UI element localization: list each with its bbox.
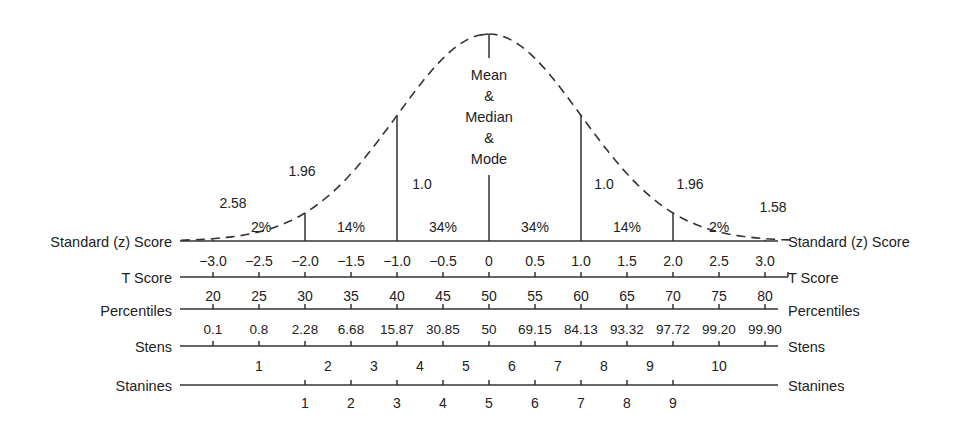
z-value: −3.0 bbox=[199, 253, 227, 269]
sten-value: 1 bbox=[255, 358, 263, 374]
scale-name-right: Standard (z) Score bbox=[788, 234, 910, 250]
t-value: 40 bbox=[389, 288, 405, 304]
percentile-value: 15.87 bbox=[380, 322, 414, 337]
t-value: 55 bbox=[527, 288, 543, 304]
scale-name-left: T Score bbox=[121, 270, 172, 286]
t-value: 35 bbox=[343, 288, 359, 304]
label-1-96-left: 1.96 bbox=[288, 163, 315, 179]
scale-name-right: Percentiles bbox=[788, 303, 860, 319]
area-percent: 2% bbox=[709, 219, 729, 235]
area-percent: 34% bbox=[429, 219, 457, 235]
z-value: −1.5 bbox=[337, 253, 365, 269]
percentile-value: 99.20 bbox=[702, 322, 736, 337]
z-value: −0.5 bbox=[429, 253, 457, 269]
sten-value: 2 bbox=[324, 358, 332, 374]
label-1-0-right: 1.0 bbox=[594, 176, 614, 192]
z-value: 0.5 bbox=[525, 253, 545, 269]
scale-name-right: Stens bbox=[788, 339, 825, 355]
label-1-58-right: 1.58 bbox=[759, 199, 786, 215]
area-percent: 34% bbox=[521, 219, 549, 235]
z-value: 1.5 bbox=[617, 253, 637, 269]
scale-name-right: Stanines bbox=[788, 378, 844, 394]
scale-name-right: T Score bbox=[788, 270, 839, 286]
area-percent: 2% bbox=[251, 219, 271, 235]
z-value: 3.0 bbox=[755, 253, 775, 269]
z-value: 2.5 bbox=[709, 253, 729, 269]
percentile-value: 93.32 bbox=[610, 322, 644, 337]
area-percent: 14% bbox=[337, 219, 365, 235]
t-value: 20 bbox=[205, 288, 221, 304]
stanine-value: 3 bbox=[393, 395, 401, 411]
percentile-value: 50 bbox=[481, 322, 496, 337]
stanine-value: 5 bbox=[485, 395, 493, 411]
scale-name-left: Percentiles bbox=[100, 303, 172, 319]
t-value: 70 bbox=[665, 288, 681, 304]
sten-value: 7 bbox=[554, 358, 562, 374]
t-value: 75 bbox=[711, 288, 727, 304]
percentile-value: 69.15 bbox=[518, 322, 552, 337]
z-value: 1.0 bbox=[571, 253, 591, 269]
sten-value: 4 bbox=[416, 358, 424, 374]
t-value: 25 bbox=[251, 288, 267, 304]
t-value: 30 bbox=[297, 288, 313, 304]
area-percent: 14% bbox=[613, 219, 641, 235]
sten-value: 6 bbox=[508, 358, 516, 374]
center-label: Median bbox=[465, 109, 513, 125]
center-label: Mode bbox=[471, 151, 507, 167]
z-value: −1.0 bbox=[383, 253, 411, 269]
stanine-value: 7 bbox=[577, 395, 585, 411]
t-value: 80 bbox=[757, 288, 773, 304]
stanine-value: 4 bbox=[439, 395, 447, 411]
stanine-value: 9 bbox=[669, 395, 677, 411]
t-value: 65 bbox=[619, 288, 635, 304]
t-value: 60 bbox=[573, 288, 589, 304]
percentile-value: 2.28 bbox=[292, 322, 318, 337]
percentile-value: 30.85 bbox=[426, 322, 460, 337]
center-label: & bbox=[484, 88, 494, 104]
z-value: −2.5 bbox=[245, 253, 273, 269]
percentile-value: 97.72 bbox=[656, 322, 690, 337]
scale-name-left: Standard (z) Score bbox=[50, 234, 172, 250]
sten-value: 9 bbox=[646, 358, 654, 374]
scale-name-left: Stens bbox=[135, 339, 172, 355]
percentile-value: 99.90 bbox=[748, 322, 782, 337]
sten-value: 3 bbox=[370, 358, 378, 374]
z-value: 2.0 bbox=[663, 253, 683, 269]
z-value: 0 bbox=[485, 253, 493, 269]
stanine-value: 1 bbox=[301, 395, 309, 411]
sten-value: 8 bbox=[600, 358, 608, 374]
percentile-value: 6.68 bbox=[338, 322, 364, 337]
t-value: 50 bbox=[481, 288, 497, 304]
label-1-96-right: 1.96 bbox=[676, 176, 703, 192]
z-value: −2.0 bbox=[291, 253, 319, 269]
percentile-value: 0.1 bbox=[204, 322, 223, 337]
labels: Standard (z) ScoreStandard (z) ScoreT Sc… bbox=[50, 67, 909, 411]
center-label: Mean bbox=[471, 67, 507, 83]
percentile-value: 0.8 bbox=[250, 322, 269, 337]
sten-value: 10 bbox=[711, 358, 727, 374]
scale-name-left: Stanines bbox=[116, 378, 172, 394]
stanine-value: 6 bbox=[531, 395, 539, 411]
sten-value: 5 bbox=[462, 358, 470, 374]
stanine-value: 2 bbox=[347, 395, 355, 411]
label-2-58-left: 2.58 bbox=[219, 195, 246, 211]
stanine-value: 8 bbox=[623, 395, 631, 411]
normal-curve-diagram: Standard (z) ScoreStandard (z) ScoreT Sc… bbox=[0, 0, 958, 436]
center-label: & bbox=[484, 130, 494, 146]
label-1-0-left: 1.0 bbox=[412, 176, 432, 192]
percentile-value: 84.13 bbox=[564, 322, 598, 337]
t-value: 45 bbox=[435, 288, 451, 304]
